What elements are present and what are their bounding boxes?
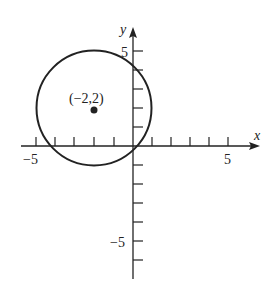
y-ticks <box>133 51 143 260</box>
y-axis-label: y <box>118 22 127 37</box>
x-axis-label: x <box>253 128 261 143</box>
y-tick-label-neg5: −5 <box>110 235 125 250</box>
center-point <box>91 107 98 114</box>
x-tick-label-pos5: 5 <box>224 152 231 167</box>
x-ticks <box>36 137 228 146</box>
circle-graph: (−2,2) x y −5 5 5 −5 <box>0 0 276 297</box>
center-point-label: (−2,2) <box>69 91 104 107</box>
y-tick-label-pos5: 5 <box>121 45 128 60</box>
x-tick-label-neg5: −5 <box>23 152 38 167</box>
